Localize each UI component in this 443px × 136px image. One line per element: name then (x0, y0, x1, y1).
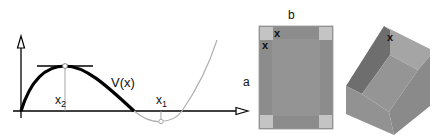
flat-sheet: b a x x (243, 8, 333, 129)
graph: V(x) x2 x1 (13, 36, 248, 124)
cut-label-top: x (274, 27, 281, 39)
sheet-width-label: b (288, 8, 295, 22)
box-height-label: x (387, 31, 394, 43)
corner-square-br (319, 115, 332, 128)
curve-extension (134, 40, 217, 122)
min-point (159, 119, 163, 123)
diagram-canvas: V(x) x2 x1 b a x x x (0, 0, 443, 136)
x-axis-arrow-icon (236, 108, 248, 115)
sheet-base-panel (272, 39, 320, 116)
max-point (63, 64, 68, 69)
max-x-label: x2 (55, 93, 66, 109)
y-axis-arrow-icon (18, 36, 25, 48)
min-x-label: x1 (156, 93, 167, 109)
cut-label-side: x (262, 39, 269, 51)
curve-label: V(x) (111, 75, 135, 90)
sheet-height-label: a (243, 75, 250, 89)
corner-square-tr (319, 27, 332, 40)
corner-square-bl (260, 115, 273, 128)
open-box: x (346, 26, 430, 135)
